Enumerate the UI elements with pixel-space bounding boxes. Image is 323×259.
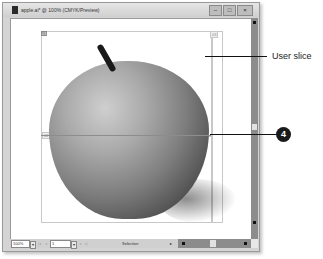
minimize-button[interactable]: – xyxy=(209,5,222,16)
page-number-field[interactable]: 1 xyxy=(50,240,71,248)
document-window: apple.ai* @ 100% (CMYK/Preview) – □ × 01… xyxy=(2,2,260,252)
horizontal-scrollbar[interactable] xyxy=(178,239,258,248)
slice-01-label: 01 xyxy=(41,31,47,36)
user-slice-callout-line xyxy=(205,56,267,57)
close-button[interactable]: × xyxy=(237,5,253,16)
next-page-button[interactable]: ▸ xyxy=(78,241,83,247)
apple-body xyxy=(49,61,209,219)
page-dropdown-arrow-icon[interactable]: ▾ xyxy=(71,241,77,249)
step-callout-line xyxy=(210,134,276,135)
vertical-scrollbar[interactable] xyxy=(251,18,258,239)
document-icon xyxy=(12,6,18,14)
last-page-button[interactable]: ▸| xyxy=(84,241,89,247)
scroll-up-arrow-icon[interactable] xyxy=(253,21,256,24)
window-controls: – □ × xyxy=(209,5,253,16)
title-bar[interactable]: apple.ai* @ 100% (CMYK/Preview) – □ × xyxy=(3,3,259,17)
status-menu-arrow-icon[interactable]: ▸ xyxy=(170,241,173,246)
artboard-canvas[interactable]: 01 03 02 xyxy=(10,18,252,240)
user-slice-callout-label: User slice xyxy=(272,51,312,61)
slice-03-label: 03 xyxy=(210,31,218,38)
scroll-down-arrow-icon[interactable] xyxy=(253,221,256,224)
scroll-right-arrow-icon[interactable] xyxy=(244,242,247,245)
apple-artwork[interactable] xyxy=(49,61,209,221)
user-slice-divider[interactable] xyxy=(41,135,211,136)
horizontal-scroll-thumb[interactable] xyxy=(210,240,216,247)
first-page-button[interactable]: |◂ xyxy=(37,241,42,247)
status-text: Selection xyxy=(122,240,138,247)
maximize-button[interactable]: □ xyxy=(223,5,236,16)
scroll-left-arrow-icon[interactable] xyxy=(182,242,185,245)
status-bar: 100% ▾ |◂ ◂ 1 ▾ ▸ ▸| Selection ▸ xyxy=(10,239,258,248)
window-title: apple.ai* @ 100% (CMYK/Preview) xyxy=(21,5,99,15)
prev-page-button[interactable]: ◂ xyxy=(43,241,48,247)
zoom-dropdown-arrow-icon[interactable]: ▾ xyxy=(30,241,36,249)
scrollbar-corner xyxy=(251,239,258,248)
step-number-badge: 4 xyxy=(276,127,291,142)
zoom-level-field[interactable]: 100% xyxy=(11,240,30,248)
vertical-scroll-thumb[interactable] xyxy=(252,124,257,130)
